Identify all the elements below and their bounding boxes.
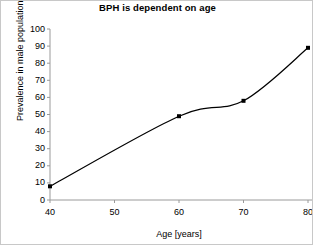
x-axis-tick-label: 60 bbox=[164, 207, 194, 217]
x-axis-tick-label: 70 bbox=[229, 207, 259, 217]
x-axis-tick-label: 80 bbox=[293, 207, 313, 217]
data-point-marker bbox=[306, 46, 310, 50]
x-axis-tick-label: 50 bbox=[100, 207, 130, 217]
x-axis-tick-label: 40 bbox=[35, 207, 65, 217]
chart-figure: BPH is dependent on age Prevalence in ma… bbox=[0, 0, 313, 245]
data-series-markers bbox=[48, 46, 310, 189]
data-point-marker bbox=[177, 114, 181, 118]
data-point-marker bbox=[48, 184, 52, 188]
data-point-marker bbox=[242, 99, 246, 103]
